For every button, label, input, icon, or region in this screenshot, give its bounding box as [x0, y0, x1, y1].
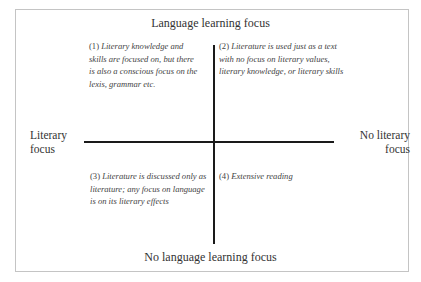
- quadrant-2: (2) Literature is used just as a text wi…: [219, 40, 349, 78]
- horizontal-axis-line: [84, 141, 334, 143]
- vertical-axis-line: [213, 45, 215, 244]
- quadrant-number: (2): [219, 41, 229, 51]
- quadrant-1: (1) Literary knowledge and skills are fo…: [89, 40, 199, 90]
- axis-label-left: Literary focus: [30, 128, 90, 156]
- axis-label-top: Language learning focus: [0, 16, 421, 30]
- quadrant-number: (4): [219, 171, 229, 181]
- quadrant-4: (4) Extensive reading: [219, 170, 339, 183]
- quadrant-number: (3): [90, 171, 100, 181]
- quadrant-text: Extensive reading: [231, 171, 293, 181]
- quadrant-text: Literature is used just as a text with n…: [219, 41, 343, 76]
- quadrant-text: Literary knowledge and skills are focuse…: [89, 41, 197, 89]
- quadrant-text: Literature is discussed only as literatu…: [90, 171, 206, 206]
- quadrant-number: (1): [89, 41, 99, 51]
- axis-label-right: No literary focus: [346, 128, 410, 156]
- quadrant-3: (3) Literature is discussed only as lite…: [90, 170, 208, 208]
- axis-label-bottom: No language learning focus: [0, 250, 421, 264]
